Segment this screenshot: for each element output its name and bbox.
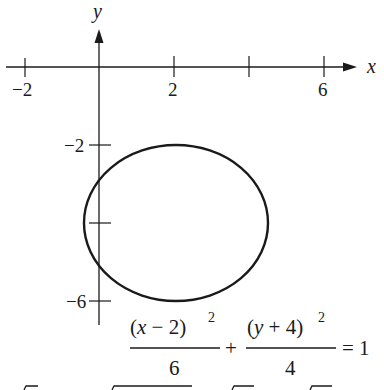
equation-exponent-1: 2 [208,310,215,325]
ellipse-graph: y x −2 2 6 −2 −6 (x − 2) 2 6 + (y + 4) 2… [0,0,384,390]
partial-radical-4 [310,386,332,390]
partial-radical-2 [112,386,192,390]
equation-exponent-2: 2 [318,310,325,325]
equation-numerator-2: (y + 4) [247,315,303,339]
y-axis-arrow-icon [95,29,104,43]
equation-plus: + [225,336,237,360]
y-axis-label: y [91,0,102,23]
x-tick-label-neg2: −2 [12,79,32,100]
x-tick-label-2: 2 [168,79,178,100]
x-axis-arrow-icon [343,63,357,72]
equation-denominator-2: 4 [285,356,296,380]
y-tick-label-neg2: −2 [64,135,84,156]
equation-denominator-1: 6 [169,356,180,380]
x-axis-label: x [366,55,376,77]
x-tick-label-6: 6 [318,79,328,100]
partial-radical-3 [232,386,254,390]
equation-numerator-1: (x − 2) [130,315,186,339]
partial-radical-1 [24,386,38,390]
ellipse-curve [84,145,268,301]
y-tick-label-neg6: −6 [66,291,86,312]
equation-equals: = 1 [342,336,370,360]
